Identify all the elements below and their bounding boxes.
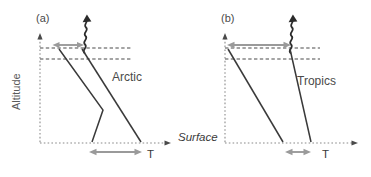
climate-temperature-profile-figure: (a) Altitude Arctic T Surface: [0, 0, 371, 177]
figure-root: (a) Altitude Arctic T Surface: [0, 0, 371, 177]
panel-b: (b) Tropics T: [221, 12, 358, 160]
panel-b-temperature-label: T: [322, 148, 329, 160]
panel-a: (a) Altitude Arctic T Surface: [10, 12, 218, 160]
panel-a-wavy-up-arrow-icon: [83, 15, 92, 53]
panel-b-altitude-axis-arrowhead: [222, 33, 227, 40]
panel-b-wavy-up-arrow-icon: [289, 15, 298, 53]
panel-a-region-label: Arctic: [112, 70, 142, 84]
panel-b-bottom-double-arrow: [285, 149, 311, 156]
panel-b-top-double-arrow: [227, 42, 291, 48]
panel-b-region-label: Tropics: [297, 74, 336, 88]
panel-b-label: (b): [221, 12, 234, 24]
panel-a-altitude-axis-arrowhead: [37, 33, 42, 40]
altitude-axis-label: Altitude: [10, 73, 22, 110]
panel-b-reference-profile: [290, 49, 311, 142]
panel-b-temperature-axis-arrowhead: [352, 140, 359, 145]
panel-a-bottom-double-arrow: [89, 149, 142, 156]
panel-a-temperature-label: T: [147, 148, 154, 160]
surface-label: Surface: [178, 131, 218, 143]
panel-a-temperature-axis-arrowhead: [165, 140, 172, 145]
panel-a-top-double-arrow: [53, 42, 85, 48]
panel-a-reference-profile: [82, 49, 141, 142]
panel-b-moist-adiabat-profile: [228, 49, 283, 142]
panel-a-label: (a): [36, 12, 49, 24]
panel-a-inversion-profile: [59, 49, 103, 142]
